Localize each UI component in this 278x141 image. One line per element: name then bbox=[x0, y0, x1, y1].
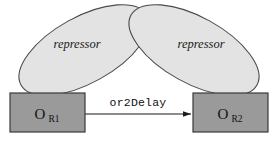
repressor-network-diagram: repressor repressor or2Delay O R1 O R2 bbox=[0, 0, 278, 141]
node-or2-box[interactable] bbox=[193, 93, 268, 132]
repressor-left-label: repressor bbox=[54, 37, 101, 51]
node-or1-group[interactable]: O R1 bbox=[10, 93, 85, 132]
node-or2-label-main: O bbox=[218, 106, 229, 122]
edge-or1-to-or2: or2Delay bbox=[85, 96, 191, 114]
node-or2-group[interactable]: O R2 bbox=[193, 93, 268, 132]
node-or1-box[interactable] bbox=[10, 93, 85, 132]
repressor-right-label: repressor bbox=[178, 37, 225, 51]
diagram-canvas: repressor repressor or2Delay O R1 O R2 bbox=[0, 0, 278, 141]
node-or1-label-main: O bbox=[35, 106, 46, 122]
node-or2-label-subscript: R2 bbox=[231, 114, 242, 124]
edge-label-or2delay: or2Delay bbox=[110, 96, 167, 109]
node-or1-label-subscript: R1 bbox=[48, 114, 59, 124]
